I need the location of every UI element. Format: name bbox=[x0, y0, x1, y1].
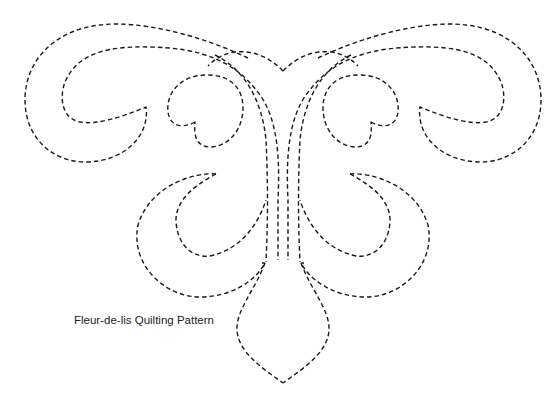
fleur-de-lis-pattern bbox=[0, 0, 557, 409]
left-small-curl bbox=[168, 75, 243, 147]
bottom-petal-left bbox=[237, 263, 283, 383]
left-inner-arc bbox=[215, 55, 268, 262]
right-stem-curve bbox=[283, 52, 358, 71]
right-small-curl bbox=[323, 75, 398, 147]
right-lower-inner bbox=[300, 174, 390, 256]
left-outer-scroll bbox=[25, 24, 279, 260]
right-outer-scroll bbox=[287, 24, 541, 260]
right-lower-scroll bbox=[301, 174, 429, 297]
right-inner-arc bbox=[299, 55, 352, 262]
pattern-right-half bbox=[283, 24, 541, 383]
pattern-caption: Fleur-de-lis Quilting Pattern bbox=[74, 314, 214, 326]
left-lower-inner bbox=[176, 174, 266, 256]
left-lower-scroll bbox=[137, 174, 265, 297]
pattern-left-half bbox=[25, 24, 283, 383]
left-stem-curve bbox=[208, 52, 283, 71]
bottom-petal-right bbox=[283, 263, 329, 383]
